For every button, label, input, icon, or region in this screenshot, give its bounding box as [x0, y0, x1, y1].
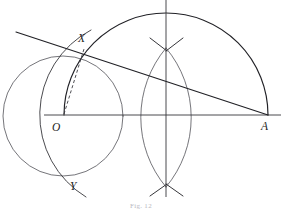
- point-label-x: X: [77, 32, 86, 44]
- bisector-arc-left: [166, 48, 191, 187]
- tick-bottom-right: [166, 184, 183, 196]
- geometry-figure: X O A Y Fig. 12: [0, 0, 286, 210]
- secant-line-a-x: [16, 32, 268, 115]
- point-label-o: O: [52, 121, 61, 133]
- tick-bottom-left: [150, 184, 167, 196]
- circle-center-o: [3, 56, 123, 176]
- point-label-a: A: [260, 120, 269, 132]
- tick-top-right: [166, 38, 183, 51]
- figure-caption: Fig. 12: [130, 202, 152, 210]
- construction-canvas: X O A Y Fig. 12: [0, 0, 286, 210]
- bisector-arc-right: [141, 48, 166, 187]
- tick-top-left: [150, 38, 167, 51]
